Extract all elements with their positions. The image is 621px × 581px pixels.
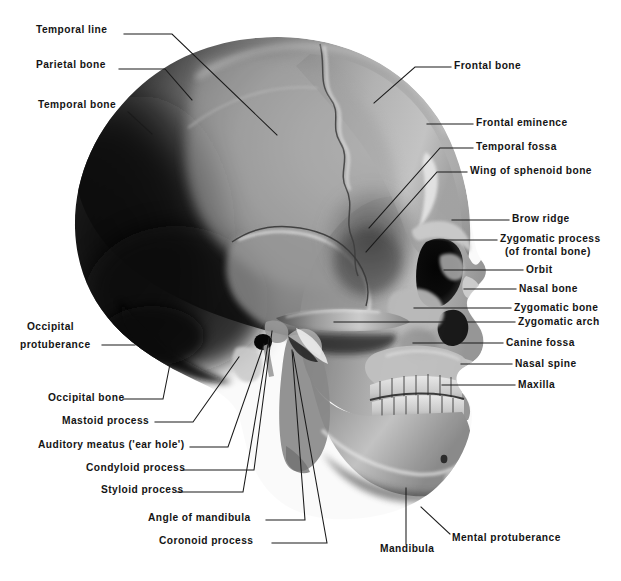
label-occipital-protuberance-line2: protuberance — [20, 339, 91, 351]
skull-anatomy-figure: Temporal line Parietal bone Temporal bon… — [0, 0, 621, 581]
label-occipital-protuberance-line1: Occipital — [27, 321, 74, 333]
label-temporal-bone: Temporal bone — [38, 99, 116, 111]
label-mastoid-process: Mastoid process — [62, 415, 149, 427]
leader-mental-prot — [421, 507, 450, 534]
label-zygomatic-process-line2: (of frontal bone) — [505, 246, 591, 258]
label-temporal-fossa: Temporal fossa — [476, 141, 557, 153]
label-coronoid-process: Coronoid process — [159, 535, 253, 547]
label-angle-of-mandibula: Angle of mandibula — [148, 512, 251, 524]
label-maxilla: Maxilla — [518, 379, 555, 391]
label-wing-of-sphenoid: Wing of sphenoid bone — [470, 165, 592, 177]
label-frontal-bone: Frontal bone — [454, 60, 521, 72]
label-styloid-process: Styloid process — [101, 484, 184, 496]
label-parietal-bone: Parietal bone — [36, 59, 106, 71]
label-auditory-meatus: Auditory meatus ('ear hole') — [38, 439, 185, 451]
label-temporal-line: Temporal line — [36, 24, 107, 36]
label-condyloid-process: Condyloid process — [86, 462, 185, 474]
label-orbit: Orbit — [526, 264, 553, 276]
label-zygomatic-process-line1: Zygomatic process — [500, 233, 601, 245]
label-nasal-bone: Nasal bone — [519, 283, 578, 295]
label-frontal-eminence: Frontal eminence — [476, 117, 568, 129]
label-occipital-bone: Occipital bone — [48, 392, 125, 404]
leader-occipital-bone — [123, 364, 170, 399]
label-nasal-spine: Nasal spine — [515, 358, 577, 370]
label-zygomatic-arch: Zygomatic arch — [518, 316, 600, 328]
label-mandibula: Mandibula — [380, 543, 434, 555]
label-brow-ridge: Brow ridge — [512, 213, 570, 225]
label-zygomatic-bone: Zygomatic bone — [514, 302, 598, 314]
label-mental-protuberance: Mental protuberance — [452, 532, 561, 544]
label-canine-fossa: Canine fossa — [506, 337, 575, 349]
